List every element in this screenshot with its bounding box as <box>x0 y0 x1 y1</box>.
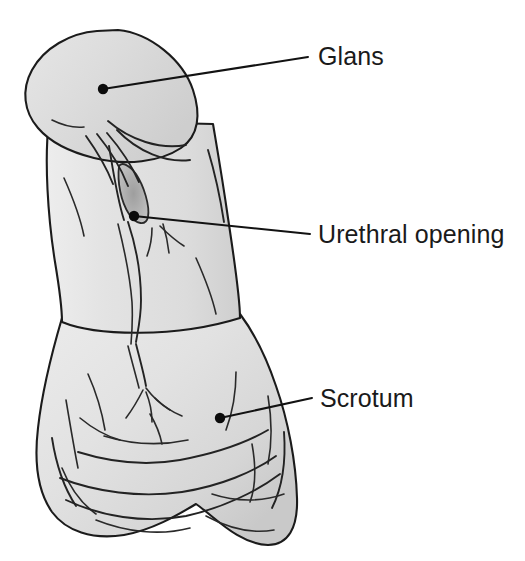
scrotum-leader-dot <box>215 413 225 423</box>
glans-label: Glans <box>318 42 384 70</box>
urethral-opening-label: Urethral opening <box>318 220 504 248</box>
scrotum-shape <box>37 314 298 545</box>
glans-leader-dot <box>98 84 108 94</box>
urethral-opening-leader-dot <box>129 211 139 221</box>
anatomy-figure: Glans Urethral opening Scrotum <box>0 0 525 561</box>
scrotum-label: Scrotum <box>320 384 414 412</box>
anatomy-illustration-canvas: Glans Urethral opening Scrotum <box>0 0 525 561</box>
